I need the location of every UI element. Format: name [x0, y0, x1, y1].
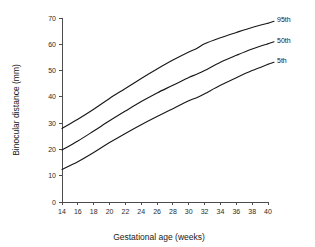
x-tick-label: 16	[74, 208, 82, 215]
x-tick-label: 38	[248, 208, 256, 215]
x-tick-label: 26	[153, 208, 161, 215]
curve-5th	[62, 64, 268, 169]
x-tick-label: 20	[106, 208, 114, 215]
binocular-distance-chart: 010203040506070 141618202224262830323436…	[0, 0, 315, 247]
x-axis-ticks: 1416182022242628303234363840	[58, 202, 272, 215]
y-tick-label: 30	[48, 120, 56, 127]
curve-label-5th: 5th	[277, 57, 287, 64]
chart-canvas: 010203040506070 141618202224262830323436…	[0, 0, 315, 247]
x-tick-label: 34	[217, 208, 225, 215]
x-tick-label: 24	[137, 208, 145, 215]
x-tick-label: 40	[264, 208, 272, 215]
percentile-curve-labels: 95th50th5th	[268, 16, 291, 64]
y-axis-title: Binocular distance (mm)	[11, 64, 21, 156]
x-tick-label: 28	[169, 208, 177, 215]
y-tick-label: 20	[48, 146, 56, 153]
y-tick-label: 50	[48, 67, 56, 74]
curve-label-50th: 50th	[277, 37, 291, 44]
y-tick-label: 0	[52, 199, 56, 206]
curve-label-95th: 95th	[277, 16, 291, 23]
curve-leader-95th	[268, 21, 274, 23]
x-tick-label: 36	[232, 208, 240, 215]
y-tick-label: 60	[48, 41, 56, 48]
curve-leader-50th	[268, 42, 274, 44]
y-tick-label: 40	[48, 93, 56, 100]
x-tick-label: 30	[185, 208, 193, 215]
x-tick-label: 22	[121, 208, 129, 215]
y-tick-label: 10	[48, 172, 56, 179]
x-tick-label: 14	[58, 208, 66, 215]
percentile-curves	[62, 23, 268, 169]
y-axis-ticks: 010203040506070	[48, 15, 62, 206]
x-tick-label: 18	[90, 208, 98, 215]
x-axis-title: Gestational age (weeks)	[113, 232, 205, 242]
x-tick-label: 32	[201, 208, 209, 215]
y-tick-label: 70	[48, 15, 56, 22]
curve-leader-5th	[268, 62, 274, 64]
curve-50th	[62, 44, 268, 150]
